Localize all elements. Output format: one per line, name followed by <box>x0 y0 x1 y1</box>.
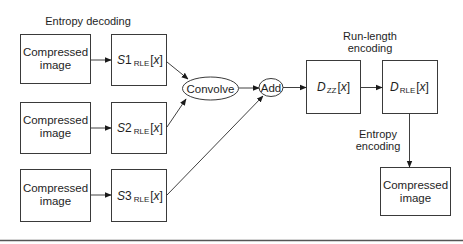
input-3-line2: image <box>40 195 71 207</box>
dzz-node: DZZ[x] <box>307 61 361 114</box>
add-node: Add <box>259 79 283 97</box>
input-2-line2: image <box>40 127 71 139</box>
convolve-label: Convolve <box>187 83 235 95</box>
run-length-encoding-label-2: encoding <box>348 42 393 54</box>
entropy-encoding-label-2: encoding <box>356 140 401 152</box>
input-3-line1: Compressed <box>23 182 88 194</box>
input-1-line2: image <box>40 59 71 71</box>
input-node-1: Compressed image <box>21 35 91 84</box>
drle-node: DRLE[x] <box>383 61 438 114</box>
input-node-3: Compressed image <box>21 170 91 222</box>
convolve-node: Convolve <box>183 77 239 100</box>
input-node-2: Compressed image <box>21 103 91 154</box>
edge-s2-convolve <box>167 99 186 127</box>
output-node: Compressed image <box>381 168 451 216</box>
output-line1: Compressed <box>383 179 448 191</box>
add-label: Add <box>261 82 281 94</box>
entropy-encoding-label-1: Entropy <box>359 128 397 140</box>
input-1-line1: Compressed <box>23 46 88 58</box>
image-processing-diagram: Entropy decoding Compressed image S1RLE[… <box>0 0 463 244</box>
edge-s3-add <box>167 96 263 195</box>
output-line2: image <box>400 192 431 204</box>
edge-s1-convolve <box>167 62 188 79</box>
signal-node-s3: S3RLE[x] <box>112 170 167 222</box>
signal-node-s1: S1RLE[x] <box>112 35 167 86</box>
input-2-line1: Compressed <box>23 114 88 126</box>
signal-node-s2: S2RLE[x] <box>112 103 167 154</box>
run-length-encoding-label-1: Run-length <box>343 30 397 42</box>
entropy-decoding-label: Entropy decoding <box>45 15 131 27</box>
